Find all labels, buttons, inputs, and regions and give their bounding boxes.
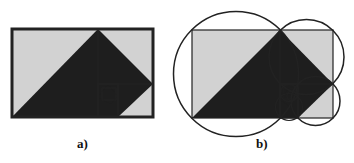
panel-b-diagram — [174, 12, 345, 137]
panel-a-diagram — [12, 29, 153, 117]
caption-a: a) — [77, 136, 88, 152]
caption-b: b) — [256, 136, 268, 152]
figure-canvas — [0, 0, 354, 163]
